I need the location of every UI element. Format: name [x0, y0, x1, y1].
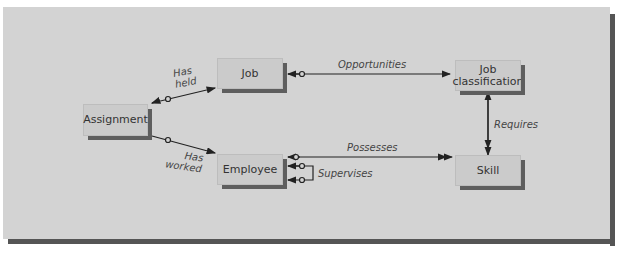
rel-label-opportunities: Opportunities: [338, 59, 406, 70]
entity-assignment[interactable]: Assignment: [83, 104, 148, 136]
entity-shadow: [222, 185, 287, 189]
entity-job-classification[interactable]: Job classification: [455, 60, 521, 91]
rel-label-supervises: Supervises: [318, 168, 373, 179]
line-has-held: [152, 88, 215, 103]
rel-label-requires: Requires: [494, 119, 538, 130]
rel-label-possesses: Possesses: [347, 142, 398, 153]
entity-employee[interactable]: Employee: [217, 154, 283, 185]
entity-skill[interactable]: Skill: [455, 155, 521, 186]
entity-shadow: [460, 186, 525, 190]
entity-label: Assignment: [83, 114, 148, 126]
entity-shadow: [222, 89, 287, 93]
rel-label-has-held: Has held: [172, 64, 197, 89]
entity-label: Job classification: [452, 64, 523, 88]
entity-shadow: [460, 91, 525, 95]
entity-label: Employee: [223, 164, 277, 176]
entity-label: Job: [242, 68, 259, 80]
entity-job[interactable]: Job: [217, 58, 283, 89]
entity-label: Skill: [477, 165, 500, 177]
entity-shadow: [88, 136, 152, 140]
